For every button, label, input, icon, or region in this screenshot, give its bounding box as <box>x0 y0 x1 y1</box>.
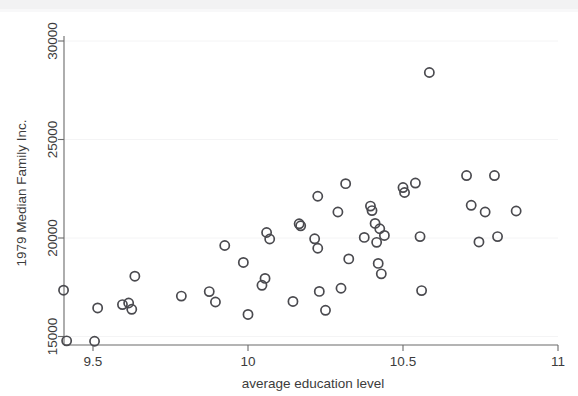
data-point <box>313 192 322 201</box>
data-point <box>493 232 502 241</box>
data-point <box>62 336 71 345</box>
data-point <box>372 238 381 247</box>
data-point <box>341 179 350 188</box>
data-point <box>377 269 386 278</box>
data-point <box>211 297 220 306</box>
y-tick-label: 20000 <box>45 219 60 257</box>
plot-canvas: 150002000025000300009.51010.511average e… <box>0 0 578 396</box>
data-point <box>239 258 248 267</box>
data-point <box>425 68 434 77</box>
data-point <box>177 292 186 301</box>
data-point <box>380 231 389 240</box>
data-point <box>512 206 521 215</box>
y-tick-label: 15000 <box>45 318 60 356</box>
data-point <box>474 237 483 246</box>
data-point <box>315 287 324 296</box>
data-point <box>93 303 102 312</box>
data-point <box>321 306 330 315</box>
data-point <box>205 287 214 296</box>
data-point <box>288 297 297 306</box>
data-point <box>130 272 139 281</box>
data-point <box>415 232 424 241</box>
data-point <box>243 310 252 319</box>
data-point <box>481 207 490 216</box>
y-tick-label: 30000 <box>45 22 60 60</box>
data-point <box>374 259 383 268</box>
y-axis-title: 1979 Median Family Inc. <box>14 119 29 266</box>
y-tick-label: 25000 <box>45 121 60 159</box>
data-point <box>310 234 319 243</box>
x-tick-label: 9.5 <box>84 354 103 369</box>
data-point <box>462 171 471 180</box>
data-point <box>417 286 426 295</box>
x-tick-label: 10 <box>240 354 255 369</box>
data-point <box>336 284 345 293</box>
data-point <box>467 201 476 210</box>
x-tick-label: 10.5 <box>390 354 416 369</box>
data-point <box>360 233 369 242</box>
data-point <box>220 241 229 250</box>
x-axis-title: average education level <box>242 376 385 391</box>
data-point <box>118 300 127 309</box>
scatter-plot-figure: 150002000025000300009.51010.511average e… <box>0 0 578 396</box>
x-tick-label: 11 <box>551 354 565 369</box>
data-point-group <box>59 68 521 346</box>
data-point <box>490 171 499 180</box>
data-point <box>344 254 353 263</box>
data-point <box>313 244 322 253</box>
data-point <box>411 178 420 187</box>
data-point <box>333 207 342 216</box>
